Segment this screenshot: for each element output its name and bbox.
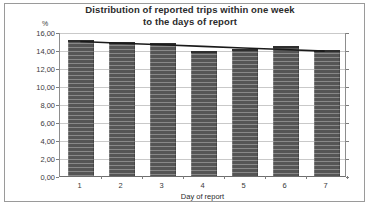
y-tick-label: 6,00 [19, 119, 55, 128]
y-tick-mark [56, 33, 59, 34]
gridline [60, 176, 345, 177]
y-tick-mark-right [346, 87, 349, 88]
plot-area [59, 33, 346, 177]
y-tick-label: 2,00 [19, 155, 55, 164]
y-tick-mark [56, 159, 59, 160]
y-tick-mark-right [346, 51, 349, 52]
chart-title-line-1: Distribution of reported trips within on… [50, 4, 330, 16]
chart-title-line-2: to the days of report [50, 16, 330, 28]
y-tick-mark-right [346, 123, 349, 124]
x-tick-label: 1 [60, 181, 100, 190]
y-tick-mark [56, 105, 59, 106]
x-tick-label: 4 [183, 181, 223, 190]
x-tick-mark [265, 176, 266, 179]
x-axis-title: Day of report [59, 192, 346, 201]
x-tick-mark [101, 176, 102, 179]
y-tick-label: 4,00 [19, 137, 55, 146]
x-tick-label: 3 [142, 181, 182, 190]
y-tick-mark-right [346, 177, 349, 178]
x-tick-mark [183, 176, 184, 179]
x-tick-mark [142, 176, 143, 179]
y-tick-mark [56, 51, 59, 52]
y-tick-label: 10,00 [19, 83, 55, 92]
x-tick-marks-layer [60, 33, 345, 176]
chart-title: Distribution of reported trips within on… [50, 4, 330, 27]
y-tick-mark [56, 123, 59, 124]
y-tick-mark-right [346, 141, 349, 142]
y-tick-mark-right [346, 105, 349, 106]
y-tick-label: 8,00 [19, 101, 55, 110]
x-tick-label: 7 [306, 181, 346, 190]
x-tick-label: 6 [265, 181, 305, 190]
y-tick-mark [56, 141, 59, 142]
x-tick-mark [306, 176, 307, 179]
y-tick-mark-right [346, 69, 349, 70]
y-tick-mark [56, 87, 59, 88]
y-tick-mark-right [346, 159, 349, 160]
x-tick-label: 2 [101, 181, 141, 190]
y-tick-label: 16,00 [19, 29, 55, 38]
y-tick-label: 12,00 [19, 65, 55, 74]
y-tick-mark-right [346, 33, 349, 34]
y-tick-label: 14,00 [19, 47, 55, 56]
x-tick-label: 5 [224, 181, 264, 190]
y-tick-mark [56, 177, 59, 178]
x-tick-mark [224, 176, 225, 179]
y-axis-unit-label: % [42, 20, 48, 27]
y-tick-label: 0,00 [19, 173, 55, 182]
y-tick-mark [56, 69, 59, 70]
chart-container: Distribution of reported trips within on… [0, 0, 370, 208]
